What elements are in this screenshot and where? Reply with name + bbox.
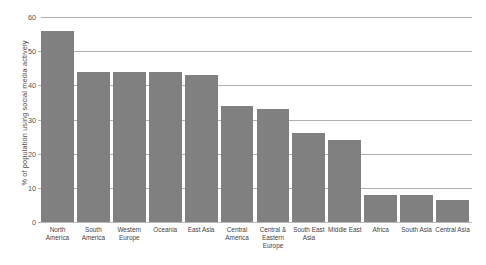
bar <box>292 133 325 222</box>
bar <box>77 72 110 222</box>
y-tick-label-50: 50 <box>28 47 36 56</box>
y-tick-label-10: 10 <box>28 183 36 192</box>
x-axis-label: Africa <box>361 226 400 234</box>
x-axis-label: North America <box>38 226 77 242</box>
bar <box>185 75 218 222</box>
x-axis-label: Central America <box>218 226 257 242</box>
y-tick-label-40: 40 <box>28 81 36 90</box>
y-tick-label-60: 60 <box>28 13 36 22</box>
y-tick-label-20: 20 <box>28 149 36 158</box>
x-axis-label: Oceania <box>146 226 185 234</box>
bar <box>364 195 397 222</box>
bar <box>149 72 182 222</box>
y-tick-label-30: 30 <box>28 115 36 124</box>
x-axis-label: Western Europe <box>110 226 149 242</box>
gridline-0 <box>41 222 472 223</box>
bar <box>328 140 361 222</box>
bar <box>436 200 469 222</box>
bar <box>113 72 146 222</box>
x-axis-labels: North AmericaSouth AmericaWestern Europe… <box>41 226 472 262</box>
y-tick-label-0: 0 <box>32 218 36 227</box>
x-axis-label: Middle East <box>325 226 364 234</box>
bar <box>400 195 433 222</box>
bar <box>221 106 254 222</box>
y-tick-mark-0 <box>38 222 41 223</box>
bar <box>257 109 290 222</box>
x-axis-label: Central Asia <box>433 226 472 234</box>
x-axis-label: South Asia <box>397 226 436 234</box>
bar <box>41 31 74 222</box>
x-axis-label: Central & Eastern Europe <box>254 226 293 251</box>
plot-area: 0102030405060 <box>41 17 472 222</box>
bar-chart: % of population using social media activ… <box>0 0 486 265</box>
x-axis-label: South America <box>74 226 113 242</box>
x-axis-label: East Asia <box>182 226 221 234</box>
x-axis-label: South East Asia <box>289 226 328 242</box>
bars <box>41 17 472 222</box>
